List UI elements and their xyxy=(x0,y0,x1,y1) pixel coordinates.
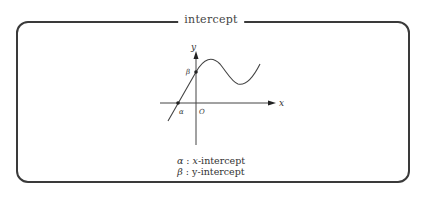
alpha-label: α xyxy=(179,108,184,116)
legend-sep: : xyxy=(183,155,192,166)
legend-alpha: α : x-intercept xyxy=(0,155,422,166)
x-intercept-point xyxy=(176,101,180,105)
y-axis-label: y xyxy=(190,42,197,52)
x-axis-arrow-icon xyxy=(268,101,276,106)
origin-label: O xyxy=(199,108,205,116)
y-intercept-point xyxy=(194,70,198,74)
x-axis-label: x xyxy=(279,98,284,108)
legend-text: -intercept xyxy=(198,155,245,166)
legend-beta: β : y-intercept xyxy=(0,166,422,177)
legend-text: -intercept xyxy=(197,166,244,177)
beta-label: β xyxy=(185,68,190,76)
legend-sep: : xyxy=(183,166,192,177)
y-axis-arrow-icon xyxy=(194,51,199,59)
